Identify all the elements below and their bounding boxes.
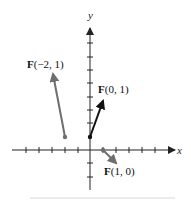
label-f-1-0-args: (1, 0) bbox=[111, 165, 135, 177]
vector-f-neg2-1 bbox=[53, 74, 67, 139]
label-f-1-0-bold: F bbox=[104, 165, 111, 177]
label-f-1-0: F(1, 0) bbox=[104, 166, 135, 177]
vector-field-plot bbox=[0, 0, 191, 201]
x-axis-label: x bbox=[177, 145, 182, 156]
label-f-0-1: F(0, 1) bbox=[98, 84, 129, 95]
label-f-neg2-1-args: (−2, 1) bbox=[34, 58, 64, 70]
label-f-neg2-1: F(−2, 1) bbox=[27, 59, 64, 70]
label-f-0-1-args: (0, 1) bbox=[105, 83, 129, 95]
label-f-0-1-bold: F bbox=[98, 83, 105, 95]
label-f-neg2-1-bold: F bbox=[27, 58, 34, 70]
y-axis-label: y bbox=[88, 10, 93, 21]
